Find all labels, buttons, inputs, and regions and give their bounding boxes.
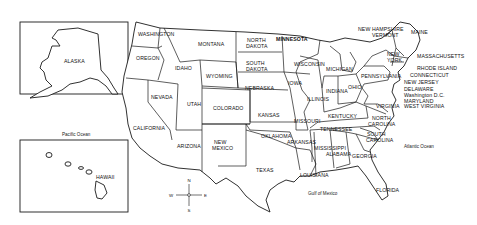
hawaii-island-kauai[interactable] <box>46 153 52 158</box>
compass-w: W <box>169 193 174 198</box>
state-label-iowa: IOWA <box>288 80 302 86</box>
state-label-louisiana: LOUISIANA <box>300 172 329 178</box>
hawaii-island-molokai[interactable] <box>79 167 84 170</box>
state-label-south-carolina-2: CAROLINA <box>366 137 394 143</box>
state-label-michigan: MICHIGAN <box>326 66 353 72</box>
state-label-connecticut: CONNECTICUT <box>410 72 450 78</box>
state-label-kansas: KANSAS <box>258 112 280 118</box>
compass-rose-icon: N S E W <box>169 178 207 213</box>
pacific-ocean-label: Pacific Ocean <box>62 132 91 137</box>
state-label-florida: FLORIDA <box>376 187 400 193</box>
state-label-wisconsin: WISCONSIN <box>294 61 325 67</box>
state-label-massachusetts: MASSACHUSETTS <box>417 53 465 59</box>
state-label-alabama: ALABAMA <box>326 151 352 157</box>
state-label-wyoming: WYOMING <box>206 73 233 79</box>
gulf-of-mexico-label: Gulf of Mexico <box>308 191 338 196</box>
state-label-hawaii: HAWAII <box>96 174 115 180</box>
hawaii-inset: HAWAII <box>20 140 128 212</box>
compass-e: E <box>204 193 207 198</box>
state-label-north-carolina-2: CAROLINA <box>368 121 396 127</box>
state-label-nebraska: NEBRASKA <box>245 85 274 91</box>
state-label-utah: UTAH <box>187 101 201 107</box>
state-label-rhode-island: RHODE ISLAND <box>417 65 457 71</box>
hawaii-island-big[interactable] <box>95 181 107 199</box>
state-label-minnesota: MINNESOTA <box>276 36 308 42</box>
state-label-colorado: COLORADO <box>213 105 244 111</box>
state-label-nevada: NEVADA <box>151 94 173 100</box>
state-label-ohio: OHIO <box>348 84 362 90</box>
state-label-arkansas: ARKANSAS <box>287 139 316 145</box>
state-label-north-dakota-2: DAKOTA <box>246 43 268 49</box>
alaska-inset: ALASKA <box>20 22 128 98</box>
state-label-missouri: MISSOURI <box>294 118 320 124</box>
state-label-indiana: INDIANA <box>326 88 348 94</box>
state-label-alaska: ALASKA <box>64 58 85 64</box>
state-label-maryland: MARYLAND <box>404 98 434 104</box>
state-label-georgia: GEORGIA <box>352 153 377 159</box>
hawaii-island-oahu[interactable] <box>65 162 71 166</box>
hawaii-island-maui[interactable] <box>86 170 92 174</box>
state-label-idaho: IDAHO <box>175 65 192 71</box>
state-label-oregon: OREGON <box>136 55 160 61</box>
compass-s: S <box>188 208 191 213</box>
state-label-new-jersey: NEW JERSEY <box>404 79 439 85</box>
state-label-virginia: VIRGINIA <box>376 103 400 109</box>
atlantic-ocean-label: Atlantic Ocean <box>404 144 434 149</box>
state-label-new-hampshire: NEW HAMPSHIRE <box>358 26 404 32</box>
state-label-south-dakota-2: DAKOTA <box>246 66 268 72</box>
state-label-washington: WASHINGTON <box>138 31 175 37</box>
state-label-maine: MAINE <box>411 29 428 35</box>
state-label-montana: MONTANA <box>198 41 225 47</box>
us-map: ALASKA Pacific Ocean HAWAII <box>0 0 477 225</box>
state-label-tennessee: TENNESSEE <box>320 126 353 132</box>
state-label-texas: TEXAS <box>256 167 274 173</box>
state-label-california: CALIFORNIA <box>133 125 166 131</box>
state-label-pennsylvania: PENNSYLVANIA <box>361 73 402 79</box>
state-label-arizona: ARIZONA <box>177 143 201 149</box>
state-label-illinois: ILLINOIS <box>307 96 330 102</box>
state-label-kentucky: KENTUCKY <box>328 113 357 119</box>
state-label-new-york-2: YORK <box>387 57 403 63</box>
compass-n: N <box>188 178 191 183</box>
state-label-new-mexico-2: MEXICO <box>212 145 233 151</box>
state-label-vermont: VERMONT <box>372 32 399 38</box>
